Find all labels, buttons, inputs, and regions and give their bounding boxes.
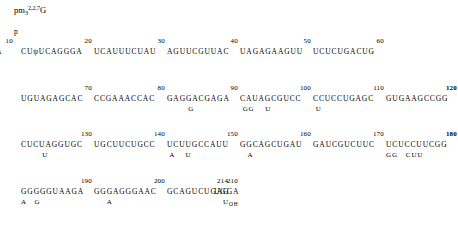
block-position-number: 140 — [94, 129, 166, 139]
block-position-number: 200 — [94, 176, 166, 186]
block-sequence: GGGAGGGAAC — [94, 186, 166, 197]
cap-base: pm — [14, 5, 25, 15]
sequence-block: 60 UCUCUGACUG — [313, 36, 385, 57]
sequence-block: 180 UCUCCUUCGG GG CUU — [386, 129, 458, 160]
block-position-number: 30 — [94, 36, 166, 46]
block-position-number: 150 — [167, 129, 239, 139]
sequence-row: 10 pAAGACUAψA m 20 CUψUCAGGGA 30 UCAUUUC… — [0, 36, 403, 80]
phosphate-marker: p — [14, 28, 18, 36]
sequence-block: 70 UGUAGAGCAC — [21, 83, 93, 104]
sequence-block: 90 GAGGACGAGA G — [167, 83, 239, 114]
block-position-number: 190 — [21, 176, 93, 186]
block-sequence: GUGAAGCCGG — [386, 93, 458, 104]
terminal-residue: UOH — [214, 197, 254, 209]
block-position-number: 40 — [167, 36, 239, 46]
block-position-number: 10 — [0, 36, 14, 46]
sequence-block: 200 GGGAGGGAAC A — [94, 176, 166, 207]
sequence-row: 70 UGUAGAGCAC 80 CCGAAACCAC 90 GAGGACGAG… — [0, 83, 403, 127]
block-position-number: 110 — [313, 83, 385, 93]
block-sequence: UCUCUGACUG — [313, 46, 385, 57]
sequence-row: 190 GGGGGUAAGA A G 200 GGGAGGGAAC A 210 … — [0, 176, 403, 220]
block-position-number: 50 — [240, 36, 312, 46]
block-position-number: 100 — [240, 83, 312, 93]
block-sequence: GGGGGUAAGA — [21, 186, 93, 197]
block-sequence: CUψUCAGGGA — [21, 46, 93, 57]
block-modification-subscript: GG U — [240, 104, 312, 114]
block-sequence: UCUCCUUCGG — [386, 139, 458, 150]
block-position-number: 214 — [214, 176, 254, 186]
sequence-block: 150 UCUUGCCAUU A U — [167, 129, 239, 160]
block-sequence: CCUCCUGAGC — [313, 93, 385, 104]
sequence-block: 20 CUψUCAGGGA — [21, 36, 93, 57]
cap-nucleoside: G — [40, 5, 46, 15]
sequence-block: 140 UGCUUCUGCC — [94, 129, 166, 150]
block-sequence: GAGGACGAGA — [167, 93, 239, 104]
sequence-block: 50 UAGAGAAGUU — [240, 36, 312, 57]
sequence-row: 130 CUCUAGGUGC U 140 UGCUUCUGCC 150 UCUU… — [0, 129, 403, 173]
block-position-number: 180 — [386, 129, 458, 139]
block-modification-subscript: U — [21, 150, 93, 160]
block-modification-subscript: A U — [167, 150, 239, 160]
block-position-number: 90 — [167, 83, 239, 93]
block-modification-subscript: GG CUU — [386, 150, 458, 160]
block-position-number: 20 — [21, 36, 93, 46]
cap-superscript: 2,2,7 — [28, 5, 40, 11]
block-position-number: 160 — [240, 129, 312, 139]
block-sequence: GAUCGUCUUC — [313, 139, 385, 150]
block-sequence: CUCUAGGUGC — [21, 139, 93, 150]
sequence-block: 160 GGCAGCUGAU A — [240, 129, 312, 160]
block-modification-subscript: U — [313, 104, 385, 114]
block-sequence: UGUAGAGCAC — [21, 93, 93, 104]
block-position-number: 130 — [21, 129, 93, 139]
block-modification-subscript: A — [94, 197, 166, 207]
block-position-number: 70 — [21, 83, 93, 93]
block-position-number: 80 — [94, 83, 166, 93]
sequence-block: 120 GUGAAGCCGG — [386, 83, 458, 104]
block-sequence: UAGAGAAGUU — [240, 46, 312, 57]
block-sequence: CCGAAACCAC — [94, 93, 166, 104]
block-sequence: UCUUGCCAUU — [167, 139, 239, 150]
sequence-block: 170 GAUCGUCUUC — [313, 129, 385, 150]
sequence-block: 190 GGGGGUAAGA A G — [21, 176, 93, 207]
sequence-block: 10 pAAGACUAψA m — [0, 36, 14, 67]
block-modification-subscript: A — [240, 150, 312, 160]
block-sequence: AGUUCGUUAC — [167, 46, 239, 57]
block-modification-subscript: A G — [21, 197, 93, 207]
sequence-block: 100 CAUAGCGUCC GG U — [240, 83, 312, 114]
block-modification-subscript: m — [0, 57, 14, 67]
sequence-block-terminal: 214 UGGA UOH — [214, 176, 254, 209]
block-position-number: 170 — [313, 129, 385, 139]
block-sequence: UCAUUUCUAU — [94, 46, 166, 57]
sequence-block: 110 CCUCCUGAGC U — [313, 83, 385, 114]
sequence-block: 80 CCGAAACCAC — [94, 83, 166, 104]
sequence-block: 130 CUCUAGGUGC U — [21, 129, 93, 160]
block-sequence: CAUAGCGUCC — [240, 93, 312, 104]
block-sequence: UGCUUCUGCC — [94, 139, 166, 150]
sequence-block: 40 AGUUCGUUAC — [167, 36, 239, 57]
block-modification-subscript: G — [167, 104, 239, 114]
block-sequence: pAAGACUAψA — [0, 46, 14, 57]
sequence-block: 30 UCAUUUCUAU — [94, 36, 166, 57]
block-sequence: UGGA — [214, 186, 254, 197]
cap-notation: pm32,2,7G — [14, 5, 46, 16]
block-position-number: 120 — [386, 83, 458, 93]
block-sequence: GGCAGCUGAU — [240, 139, 312, 150]
terminal-hydroxyl-label: OH — [229, 201, 239, 207]
block-position-number: 60 — [313, 36, 385, 46]
